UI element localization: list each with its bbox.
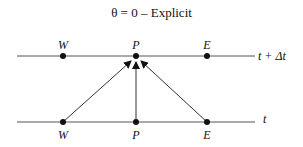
label-lower-e: E — [202, 128, 211, 142]
label-lower-w: W — [58, 128, 69, 142]
label-upper-p: P — [131, 38, 140, 52]
arrow-e-to-p — [141, 61, 207, 122]
node-lower-w — [60, 119, 66, 125]
time-label-lower: t — [263, 112, 267, 126]
time-label-upper: t + Δt — [258, 49, 286, 63]
arrow-w-to-p — [63, 61, 131, 122]
stencil-diagram: W P E W P E t + Δt t — [0, 0, 303, 147]
node-upper-e — [204, 53, 210, 59]
label-lower-p: P — [131, 128, 140, 142]
node-upper-w — [60, 53, 66, 59]
node-lower-p — [133, 119, 139, 125]
label-upper-e: E — [202, 38, 211, 52]
node-upper-p — [133, 53, 139, 59]
node-lower-e — [204, 119, 210, 125]
label-upper-w: W — [58, 38, 69, 52]
